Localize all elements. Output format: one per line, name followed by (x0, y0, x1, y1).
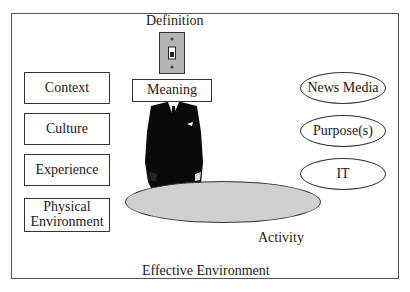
purposes-label: Purpose(s) (313, 123, 373, 139)
culture-box: Culture (24, 113, 110, 145)
meaning-label: Meaning (147, 83, 197, 98)
it-label: IT (336, 166, 349, 182)
context-label: Context (45, 81, 89, 96)
news-media-oval: News Media (300, 72, 386, 104)
environment-label: Environment (30, 215, 103, 230)
activity-platform (125, 181, 321, 223)
light-switch-icon (159, 32, 185, 74)
definition-label: Definition (146, 14, 204, 28)
news-media-label: News Media (307, 80, 378, 96)
it-oval: IT (300, 158, 386, 190)
experience-box: Experience (24, 154, 110, 186)
purposes-oval: Purpose(s) (300, 115, 386, 147)
context-box: Context (24, 72, 110, 104)
effective-environment-label: Effective Environment (142, 264, 270, 278)
activity-label: Activity (258, 231, 304, 245)
culture-label: Culture (46, 122, 88, 137)
physical-label: Physical (43, 200, 90, 215)
meaning-box: Meaning (132, 79, 212, 102)
physical-environment-box: Physical Environment (24, 198, 110, 232)
business-suit-figure (143, 102, 205, 194)
experience-label: Experience (36, 163, 99, 178)
